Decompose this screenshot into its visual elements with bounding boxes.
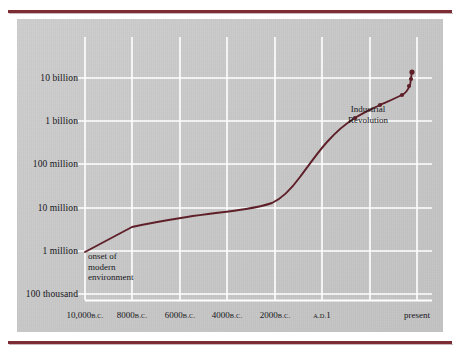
grid-vertical [85,37,417,300]
y-tick-label-1-million: 1 million [10,246,78,256]
x-tick-era: B.C. [230,312,242,319]
annotation-line-2: modern [88,262,134,273]
annotation-onset-of-modern-environment: onset of modern environment [88,251,134,283]
y-tick-label-10-million: 10 million [10,203,78,213]
annotation-line-2: Revolution [348,115,388,126]
bottom-rule-shadow [9,344,453,345]
population-curve [85,72,412,252]
x-tick-number: 10,000 [66,310,91,320]
x-tick-number: 1 [326,310,331,320]
x-tick-number: present [404,310,430,320]
population-growth-figure: 10 billion 1 billion 100 million 10 mill… [0,0,460,355]
x-tick-number: 2000 [260,310,278,320]
annotation-line-1: Industrial [348,104,388,115]
plot-area [0,0,460,355]
x-tick-label-present: present [384,310,450,320]
x-tick-number: 6000 [165,310,183,320]
x-tick-number: 4000 [212,310,230,320]
y-tick-label-10-billion: 10 billion [10,73,78,83]
annotation-industrial-revolution: Industrial Revolution [348,104,388,125]
x-tick-label-ad-1: A.D.1 [289,310,355,320]
y-tick-label-1-billion: 1 billion [10,116,78,126]
x-tick-number: 8000 [117,310,135,320]
y-tick-label-100-thousand: 100 thousand [6,289,78,299]
x-tick-era: B.C. [135,312,147,319]
annotation-line-3: environment [88,272,134,283]
x-tick-era: A.D. [313,312,326,319]
y-tick-label-100-million: 100 million [10,159,78,169]
annotation-line-1: onset of [88,251,134,262]
